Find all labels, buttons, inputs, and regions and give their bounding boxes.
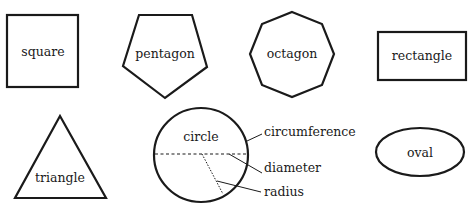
shapes-diagram: square pentagon octagon rectangle triang… [0,0,475,214]
triangle-figure: triangle [15,116,106,198]
oval-label: oval [407,145,433,160]
circle-figure: circle circumference diameter radius [154,108,356,202]
triangle-label: triangle [35,170,85,185]
octagon-label: octagon [267,46,318,61]
circle-shape [154,108,248,202]
octagon-figure: octagon [250,12,334,97]
oval-figure: oval [376,128,464,176]
pentagon-label: pentagon [135,46,195,61]
radius-line [202,154,223,194]
circle-label: circle [183,129,218,144]
pentagon-figure: pentagon [123,15,207,98]
diameter-label: diameter [264,160,321,175]
rectangle-label: rectangle [392,48,452,63]
square-figure: square [7,15,78,87]
radius-label: radius [264,184,304,199]
triangle-shape [15,116,106,198]
circumference-label: circumference [264,124,356,139]
square-label: square [21,44,64,59]
rectangle-figure: rectangle [378,32,466,80]
circumference-leader [247,134,262,141]
